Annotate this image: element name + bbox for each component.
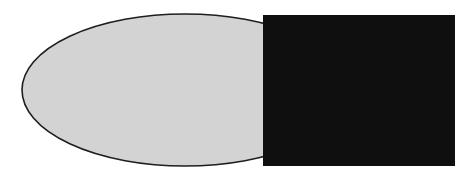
diagram-canvas <box>0 0 474 178</box>
diagram-svg <box>0 0 474 178</box>
black-square <box>263 15 455 166</box>
